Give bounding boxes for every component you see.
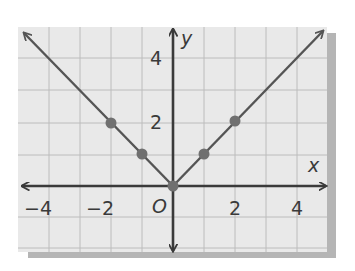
y-tick-label-4: 4 <box>150 47 162 69</box>
panel-shadow-bottom <box>28 251 336 258</box>
point-neg2-2 <box>106 118 117 129</box>
x-tick-label-neg2: −2 <box>86 197 114 219</box>
x-axis-label: x <box>307 154 320 176</box>
x-tick-label-neg4: −4 <box>24 197 52 219</box>
point-1-1 <box>199 149 210 160</box>
point-2-2 <box>230 116 241 127</box>
x-tick-label-2: 2 <box>229 197 241 219</box>
point-0-0 <box>168 181 179 192</box>
y-tick-label-2: 2 <box>150 111 162 133</box>
x-tick-label-4: 4 <box>291 197 303 219</box>
coordinate-graph: −4 −2 2 4 2 4 O x y <box>0 0 355 271</box>
point-neg1-1 <box>137 149 148 160</box>
y-axis-label: y <box>180 27 193 49</box>
origin-label: O <box>152 195 167 217</box>
panel-shadow-right <box>327 33 336 258</box>
graph-svg: −4 −2 2 4 2 4 O x y <box>0 0 355 271</box>
